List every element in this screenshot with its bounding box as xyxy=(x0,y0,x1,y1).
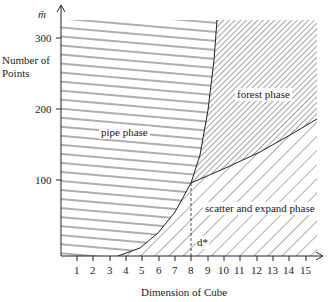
x-tick: 1 xyxy=(74,264,80,277)
dstar-label: d* xyxy=(196,236,209,249)
y-tick-300: 300 xyxy=(35,32,52,45)
x-tick: 9 xyxy=(205,264,211,277)
x-tick: 11 xyxy=(234,264,245,277)
x-tick: 13 xyxy=(267,264,278,277)
x-tick: 4 xyxy=(123,264,129,277)
x-tick: 8 xyxy=(188,264,194,277)
x-tick: 3 xyxy=(107,264,113,277)
pipe-phase-label: pipe phase xyxy=(99,126,150,139)
x-tick: 2 xyxy=(90,264,96,277)
forest-phase-label: forest phase xyxy=(235,88,292,101)
x-tick: 6 xyxy=(156,264,162,277)
y-axis-symbol: m̄ xyxy=(38,8,46,21)
x-tick: 12 xyxy=(251,264,262,277)
y-axis-title-line2: Points xyxy=(2,67,30,80)
y-tick-100: 100 xyxy=(35,174,52,187)
y-axis-title-line1: Number of xyxy=(2,54,50,67)
y-tick-200: 200 xyxy=(35,103,52,116)
phase-diagram xyxy=(0,0,333,302)
x-tick: 10 xyxy=(218,264,229,277)
x-tick: 15 xyxy=(300,264,311,277)
scatter-phase-label: scatter and expand phase xyxy=(203,202,317,215)
x-tick: 5 xyxy=(139,264,145,277)
x-axis-title: Dimension of Cube xyxy=(141,286,227,299)
x-tick: 7 xyxy=(172,264,178,277)
x-tick: 14 xyxy=(283,264,294,277)
